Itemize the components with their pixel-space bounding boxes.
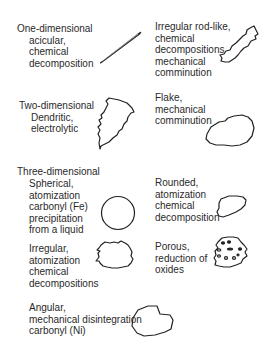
flake-icon — [206, 115, 254, 146]
angular-icon — [132, 306, 173, 336]
sphere-icon — [102, 197, 135, 230]
dendritic-icon — [98, 98, 134, 149]
porous-icon — [214, 237, 247, 267]
rounded-icon — [217, 196, 246, 217]
needle-icon — [100, 32, 141, 63]
particle-shapes — [0, 0, 269, 355]
irregular-rod-icon — [220, 26, 258, 62]
irregular-icon — [96, 241, 133, 268]
